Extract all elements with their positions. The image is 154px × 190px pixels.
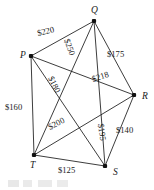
graph-vertex-p — [29, 54, 33, 58]
graph-edge-qs — [94, 21, 105, 166]
edge-weight-qt: $250 — [62, 37, 77, 57]
edges-group — [31, 21, 134, 166]
edge-weight-ps: $180 — [46, 74, 63, 94]
edge-weight-pq: $220 — [36, 24, 55, 38]
edge-weight-qr: $175 — [107, 49, 124, 59]
edge-weight-ts: $125 — [58, 165, 75, 175]
vertices-group — [29, 19, 136, 168]
graph-vertex-s — [103, 164, 107, 168]
graph-vertex-r — [132, 93, 136, 97]
vertex-label-r: R — [141, 91, 148, 101]
weighted-graph-diagram: $220$175$218$160$180$250$195$200$140$125… — [0, 0, 154, 190]
edge-weight-pr: $218 — [91, 69, 110, 84]
cut-off-caption-artifact — [6, 180, 102, 187]
graph-vertex-q — [92, 19, 96, 23]
edge-weight-rs: $140 — [116, 125, 133, 135]
vertex-label-p: P — [19, 50, 26, 60]
vertex-label-t: T — [30, 160, 36, 170]
edge-weight-pt: $160 — [5, 102, 22, 112]
edge-weight-labels-group: $220$175$218$160$180$250$195$200$140$125 — [5, 24, 133, 175]
graph-edge-pr — [31, 56, 134, 95]
graph-figure: $220$175$218$160$180$250$195$200$140$125… — [0, 0, 154, 190]
vertex-label-q: Q — [91, 5, 98, 15]
graph-vertex-t — [32, 153, 36, 157]
graph-edge-pt — [31, 56, 34, 155]
edge-weight-qs: $195 — [96, 123, 108, 141]
edge-weight-rt: $200 — [46, 115, 66, 132]
vertex-label-s: S — [113, 167, 118, 177]
